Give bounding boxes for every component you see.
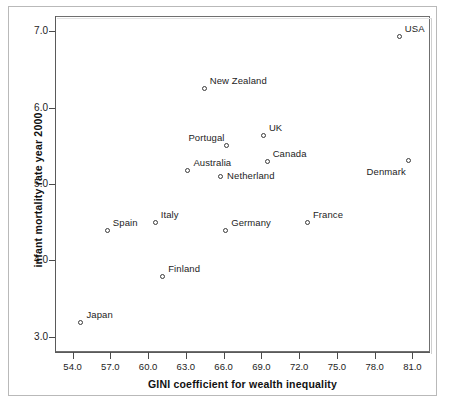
x-tick-mark (148, 352, 149, 359)
plot-area (55, 16, 430, 352)
y-tick-mark (49, 31, 55, 32)
x-tick-label: 66.0 (204, 361, 244, 372)
x-axis-title: GINI coefficient for wealth inequality (55, 378, 430, 390)
data-point-marker[interactable] (153, 220, 158, 225)
scatter-plot-figure: 3.04.05.06.07.0 54.057.060.063.066.069.0… (0, 0, 449, 409)
data-point-marker[interactable] (305, 220, 310, 225)
x-tick-mark (261, 352, 262, 359)
data-point-label: Canada (273, 149, 307, 159)
x-tick-label: 63.0 (166, 361, 206, 372)
x-tick-mark (375, 352, 376, 359)
x-tick-mark (224, 352, 225, 359)
data-point-label: Finland (168, 264, 200, 274)
x-tick-mark (412, 352, 413, 359)
y-tick-mark (49, 184, 55, 185)
data-point-marker[interactable] (223, 228, 228, 233)
x-tick-label: 69.0 (241, 361, 281, 372)
data-point-marker[interactable] (202, 86, 207, 91)
data-point-label: Italy (161, 210, 179, 220)
x-tick-label: 72.0 (279, 361, 319, 372)
y-tick-mark (49, 260, 55, 261)
data-point-label: Portugal (188, 133, 224, 143)
x-tick-label: 60.0 (128, 361, 168, 372)
data-point-label: USA (405, 24, 425, 34)
data-point-label: Australia (193, 158, 231, 168)
x-tick-mark (110, 352, 111, 359)
x-tick-label: 81.0 (392, 361, 432, 372)
y-tick-mark (49, 108, 55, 109)
x-tick-label: 78.0 (355, 361, 395, 372)
data-point-label: UK (269, 123, 282, 133)
data-point-label: Spain (113, 218, 138, 228)
y-tick-mark (49, 337, 55, 338)
data-point-marker[interactable] (265, 159, 270, 164)
y-axis-spine (55, 16, 56, 352)
y-tick-label: 7.0 (8, 26, 48, 36)
data-point-marker[interactable] (105, 228, 110, 233)
y-tick-label: 3.0 (8, 332, 48, 342)
data-point-label: Germany (231, 218, 271, 228)
x-tick-label: 75.0 (317, 361, 357, 372)
data-point-label: Netherland (227, 171, 274, 181)
data-point-label: New Zealand (210, 76, 267, 86)
y-axis-title: infant mortality rate year 2000 (32, 80, 44, 300)
x-tick-mark (337, 352, 338, 359)
data-point-marker[interactable] (406, 158, 411, 163)
data-point-label: Denmark (367, 167, 406, 177)
data-point-marker[interactable] (261, 133, 266, 138)
x-tick-label: 54.0 (53, 361, 93, 372)
data-point-label: Japan (86, 310, 112, 320)
x-tick-mark (299, 352, 300, 359)
x-tick-label: 57.0 (90, 361, 130, 372)
x-tick-mark (186, 352, 187, 359)
x-tick-mark (73, 352, 74, 359)
data-point-label: France (313, 210, 343, 220)
